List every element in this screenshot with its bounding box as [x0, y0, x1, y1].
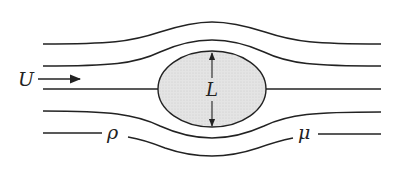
viscosity-label: μ [298, 121, 310, 143]
length-label: L [205, 79, 218, 100]
velocity-label: U [18, 68, 35, 90]
density-label: ρ [106, 121, 119, 143]
flow-diagram: U L ρ μ [0, 0, 410, 170]
streamline-bottom-outer-mid [128, 137, 293, 156]
